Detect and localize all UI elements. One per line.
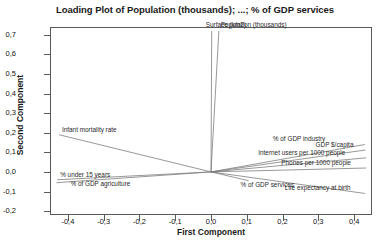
y-tick-label: -0,1 xyxy=(3,187,16,196)
loading-plot-chart: Loading Plot of Population (thousands); … xyxy=(0,0,390,249)
loading-label: Phones per 1000 people xyxy=(281,160,351,166)
y-tick-label: 0,5 xyxy=(6,69,16,78)
y-axis-title: Second Component xyxy=(15,60,25,170)
y-tick-label: 0,6 xyxy=(6,49,16,58)
page-title: Loading Plot of Population (thousands); … xyxy=(0,4,390,15)
loading-label: % under 15 years xyxy=(60,172,110,178)
loading-label: % of GDP services xyxy=(241,182,295,188)
x-tick-mark xyxy=(68,215,69,221)
x-tick-mark xyxy=(318,215,319,221)
loading-label: % of GDP agriculture xyxy=(70,181,130,187)
y-tick-label: 0,0 xyxy=(6,167,16,176)
x-tick-mark xyxy=(139,215,140,221)
y-tick-label: 0,7 xyxy=(6,30,16,39)
loading-label: Population (thousands) xyxy=(221,22,287,28)
x-tick-mark xyxy=(247,215,248,221)
loading-vector xyxy=(211,31,212,172)
loading-label: Life expectancy at birth xyxy=(285,185,351,191)
y-tick-label: 0,1 xyxy=(6,147,16,156)
loading-label: GDP $/capita xyxy=(316,142,354,148)
loading-vector xyxy=(59,135,211,172)
loading-vector xyxy=(211,31,219,172)
y-tick-label: -0,2 xyxy=(3,206,16,215)
x-axis-title: First Component xyxy=(50,227,372,237)
loading-label: Internet users per 1000 people xyxy=(258,150,345,156)
x-tick-mark xyxy=(175,215,176,221)
x-tick-mark xyxy=(211,215,212,221)
y-tick-label: 0,4 xyxy=(6,89,16,98)
y-tick-label: 0,3 xyxy=(6,108,16,117)
loading-label: Infant mortality rate xyxy=(62,127,117,133)
x-tick-mark xyxy=(104,215,105,221)
y-tick-label: 0,2 xyxy=(6,128,16,137)
x-tick-mark xyxy=(283,215,284,221)
x-tick-mark xyxy=(354,215,355,221)
